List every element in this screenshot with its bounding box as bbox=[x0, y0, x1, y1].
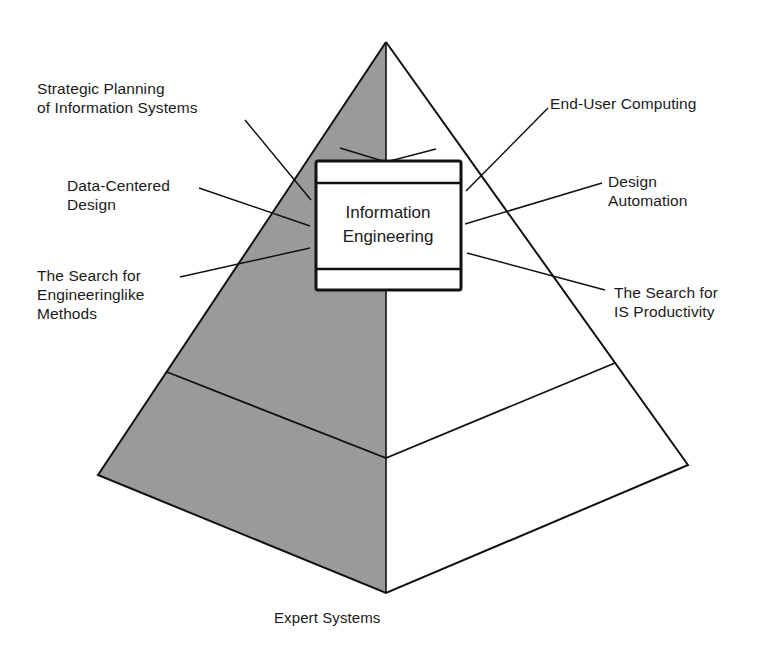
label-line: Design bbox=[67, 195, 170, 214]
callout-end-user bbox=[466, 108, 548, 191]
center-label-line2: Engineering bbox=[315, 225, 461, 249]
label-line: Design bbox=[608, 172, 687, 191]
label-data-centered-design: Data-Centered Design bbox=[67, 176, 170, 214]
label-line: The Search for bbox=[614, 283, 718, 302]
label-line: Engineeringlike bbox=[37, 285, 145, 304]
label-line: Data-Centered bbox=[67, 176, 170, 195]
label-end-user-computing: End-User Computing bbox=[550, 94, 697, 113]
label-engineeringlike-methods: The Search for Engineeringlike Methods bbox=[37, 266, 145, 323]
label-line: The Search for bbox=[37, 266, 145, 285]
label-line: Expert Systems bbox=[274, 608, 380, 627]
label-strategic-planning: Strategic Planning of Information System… bbox=[37, 79, 198, 117]
label-line: of Information Systems bbox=[37, 98, 198, 117]
label-line: IS Productivity bbox=[614, 302, 718, 321]
center-label-line1: Information bbox=[315, 201, 461, 225]
label-line: Strategic Planning bbox=[37, 79, 198, 98]
label-is-productivity: The Search for IS Productivity bbox=[614, 283, 718, 321]
label-line: Methods bbox=[37, 304, 145, 323]
label-line: End-User Computing bbox=[550, 94, 697, 113]
label-design-automation: Design Automation bbox=[608, 172, 687, 210]
information-engineering-label: Information Engineering bbox=[315, 201, 461, 249]
callout-strategic-planning bbox=[245, 120, 311, 200]
label-expert-systems: Expert Systems bbox=[274, 608, 380, 627]
label-line: Automation bbox=[608, 191, 687, 210]
